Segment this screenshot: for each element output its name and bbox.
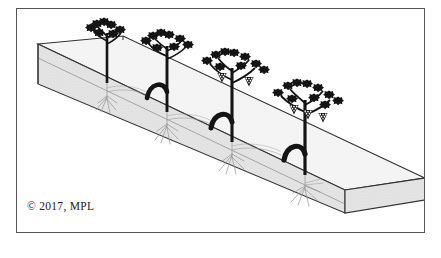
grapevine-illustration	[0, 0, 441, 258]
copyright-caption: © 2017, MPL	[27, 200, 94, 212]
figure-root: © 2017, MPL	[0, 0, 441, 258]
grape-cluster-plant-4-right	[318, 113, 327, 123]
grape-cluster-plant-4-left	[289, 105, 298, 115]
grape-cluster-plant-3-right	[244, 77, 253, 87]
